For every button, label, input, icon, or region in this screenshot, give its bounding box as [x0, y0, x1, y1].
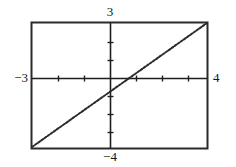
axis-label-xmin: −3 [4, 71, 28, 84]
axis-label-ymax: 3 [0, 5, 228, 18]
axis-label-ymin: −4 [0, 150, 228, 163]
graph-plot-area [0, 0, 236, 167]
graph-viewport: 3 −4 −3 4 [0, 0, 236, 167]
axis-label-xmax: 4 [213, 71, 235, 84]
